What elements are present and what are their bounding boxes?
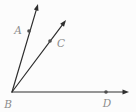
angle-rays-diagram: ACDB [0,0,136,112]
point-D-label: D [102,97,112,109]
point-D-dot [104,90,108,94]
point-B-label: B [3,98,12,110]
diagram-svg: ACDB [0,0,136,112]
point-C-dot [48,39,52,43]
point-A-dot [27,29,31,33]
diagram-background [0,0,136,112]
point-A-label: A [13,24,22,36]
point-C-label: C [57,37,65,49]
